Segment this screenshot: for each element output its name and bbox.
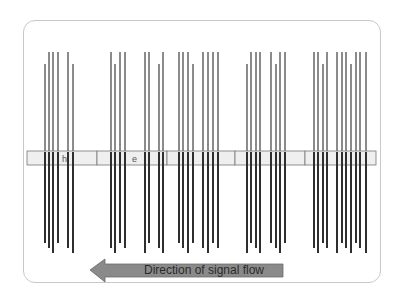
band-segment bbox=[167, 151, 235, 165]
band-letter: h bbox=[62, 154, 67, 164]
spike-train-diagram: hel bbox=[0, 0, 401, 303]
arrow-label: Direction of signal flow bbox=[124, 262, 284, 279]
band-letter: e bbox=[132, 154, 137, 164]
